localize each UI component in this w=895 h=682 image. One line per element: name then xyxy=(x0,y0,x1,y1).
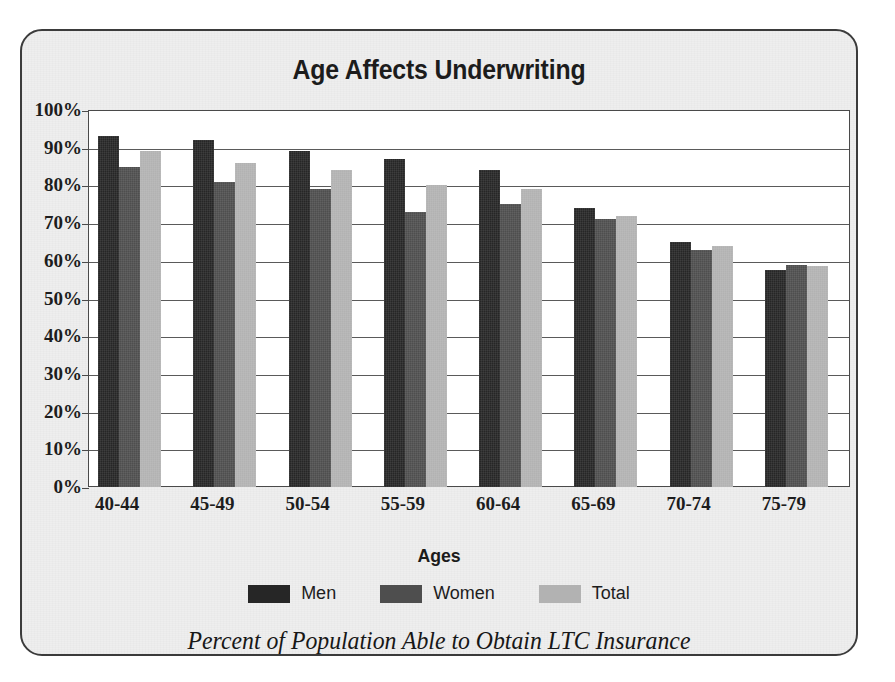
bar-total-75-79[interactable] xyxy=(807,266,828,487)
legend-label: Women xyxy=(433,583,495,604)
bar-women-45-49[interactable] xyxy=(214,182,235,487)
plot-wrapper: 100%90%80%70%60%50%40%30%20%10%0% xyxy=(88,110,850,487)
bar-men-40-44[interactable] xyxy=(98,136,119,487)
y-axis-tick-label: 50% xyxy=(44,288,82,310)
bar-men-55-59[interactable] xyxy=(384,159,405,487)
bar-women-70-74[interactable] xyxy=(691,250,712,488)
bar-men-45-49[interactable] xyxy=(193,140,214,487)
legend-item-women[interactable]: Women xyxy=(380,583,495,604)
bar-total-65-69[interactable] xyxy=(616,216,637,487)
legend-swatch-women xyxy=(380,585,422,603)
y-axis-tick-label: 0% xyxy=(54,476,83,498)
x-axis-tick-label: 65-69 xyxy=(564,493,659,515)
bar-group xyxy=(564,110,659,487)
legend-label: Men xyxy=(301,583,336,604)
bar-women-75-79[interactable] xyxy=(786,265,807,487)
x-axis-tick-label: 70-74 xyxy=(660,493,755,515)
bar-total-40-44[interactable] xyxy=(140,151,161,487)
y-axis-labels: 100%90%80%70%60%50%40%30%20%10%0% xyxy=(26,110,82,487)
y-axis-tick-label: 20% xyxy=(44,401,82,423)
x-axis-tick-label: 45-49 xyxy=(183,493,278,515)
legend-item-total[interactable]: Total xyxy=(539,583,630,604)
bar-total-45-49[interactable] xyxy=(235,163,256,487)
legend-item-men[interactable]: Men xyxy=(248,583,336,604)
x-axis-labels: 40-4445-4950-5455-5960-6465-6970-7475-79 xyxy=(88,493,850,515)
bar-men-50-54[interactable] xyxy=(289,151,310,487)
bar-group xyxy=(469,110,564,487)
x-axis-tick-label: 75-79 xyxy=(755,493,850,515)
bar-men-70-74[interactable] xyxy=(670,242,691,487)
bar-total-55-59[interactable] xyxy=(426,185,447,487)
legend-label: Total xyxy=(592,583,630,604)
y-axis-tick-label: 30% xyxy=(44,363,82,385)
legend-swatch-total xyxy=(539,585,581,603)
x-axis-tick-label: 40-44 xyxy=(88,493,183,515)
bar-group xyxy=(374,110,469,487)
x-axis-tick-label: 55-59 xyxy=(374,493,469,515)
chart-caption: Percent of Population Able to Obtain LTC… xyxy=(43,627,835,655)
bar-women-40-44[interactable] xyxy=(119,167,140,487)
y-axis-tick-label: 100% xyxy=(35,99,83,121)
bar-men-75-79[interactable] xyxy=(765,270,786,487)
bar-women-50-54[interactable] xyxy=(310,189,331,487)
bar-total-70-74[interactable] xyxy=(712,246,733,487)
bar-group xyxy=(88,110,183,487)
y-axis-tick-label: 40% xyxy=(44,325,82,347)
bar-group xyxy=(660,110,755,487)
y-axis-tick xyxy=(82,488,89,489)
bar-group xyxy=(183,110,278,487)
x-axis-tick-label: 60-64 xyxy=(469,493,564,515)
chart-title: Age Affects Underwriting xyxy=(55,55,822,86)
y-axis-tick-label: 70% xyxy=(44,212,82,234)
bar-women-55-59[interactable] xyxy=(405,212,426,487)
y-axis-tick-label: 10% xyxy=(44,438,82,460)
bar-total-60-64[interactable] xyxy=(521,189,542,487)
legend-swatch-men xyxy=(248,585,290,603)
bar-groups xyxy=(88,110,850,487)
y-axis-tick-label: 90% xyxy=(44,137,82,159)
bar-women-65-69[interactable] xyxy=(595,219,616,487)
bar-women-60-64[interactable] xyxy=(500,204,521,487)
y-axis-tick-label: 60% xyxy=(44,250,82,272)
x-axis-title: Ages xyxy=(51,545,827,567)
chart-legend: MenWomenTotal xyxy=(22,583,856,604)
bar-total-50-54[interactable] xyxy=(331,170,352,487)
y-axis-tick-label: 80% xyxy=(44,174,82,196)
bar-group xyxy=(279,110,374,487)
bar-group xyxy=(755,110,850,487)
bar-men-60-64[interactable] xyxy=(479,170,500,487)
chart-figure: Age Affects Underwriting 100%90%80%70%60… xyxy=(20,29,858,656)
x-axis-tick-label: 50-54 xyxy=(279,493,374,515)
bar-men-65-69[interactable] xyxy=(574,208,595,487)
